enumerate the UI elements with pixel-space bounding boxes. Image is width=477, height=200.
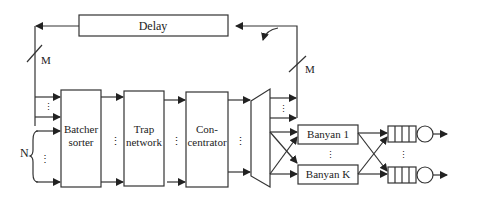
feedback-line-in: [236, 26, 297, 98]
n-label: N: [20, 146, 29, 160]
input-brace: [30, 131, 38, 182]
trap-network-block: Trap network: [124, 91, 164, 186]
banyan-1-block: Banyan 1: [298, 125, 358, 144]
selector-trapezoid: [251, 89, 270, 187]
batcher-sorter-block: Batcher sorter: [61, 90, 101, 187]
curved-arrow: [263, 28, 278, 40]
dots: ⋮: [326, 150, 335, 160]
link: [358, 133, 387, 171]
delay-block: Delay: [79, 15, 228, 36]
banyan-k-label: Banyan K: [306, 168, 350, 180]
trap-label-2: network: [126, 136, 163, 148]
dots: ⋮: [110, 135, 121, 147]
m-label-right: M: [305, 63, 315, 75]
server-circle: [417, 126, 433, 142]
dots: ⋮: [40, 153, 50, 164]
sunshine-switch-diagram: Delay M M ⋮ N ⋮ Batcher sorter ⋮ Trap ne…: [0, 0, 477, 200]
m-label-left: M: [41, 54, 51, 66]
output-queue-1: [388, 126, 447, 142]
banyan-k-block: Banyan K: [298, 165, 358, 184]
dots: ⋮: [279, 104, 288, 114]
server-circle: [417, 167, 433, 183]
link: [358, 137, 387, 174]
dots: ⋮: [44, 102, 53, 112]
banyan-1-label: Banyan 1: [307, 128, 349, 140]
batcher-label-1: Batcher: [64, 123, 99, 135]
link: [270, 137, 297, 174]
concentrator-block: Con- centrator: [186, 92, 228, 187]
concentrator-label-1: Con-: [196, 123, 218, 135]
link: [270, 132, 297, 163]
batcher-label-2: sorter: [68, 136, 93, 148]
concentrator-label-2: centrator: [187, 136, 226, 148]
delay-label: Delay: [139, 19, 168, 33]
dots: ⋮: [171, 135, 182, 147]
trap-label-1: Trap: [134, 123, 155, 135]
output-queue-k: [388, 167, 447, 183]
dots: ⋮: [399, 150, 408, 160]
dots: ⋮: [235, 135, 246, 147]
